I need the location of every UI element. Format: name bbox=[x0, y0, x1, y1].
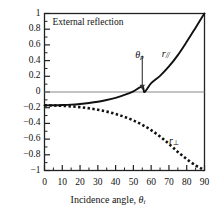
y-tick-label: 1 bbox=[36, 9, 41, 19]
r-perpendicular-subscript: ⊥ bbox=[173, 139, 179, 147]
chart-title: External reflection bbox=[53, 17, 124, 27]
y-tick-label: 0.4 bbox=[29, 56, 41, 66]
y-tick-label: −1 bbox=[30, 166, 40, 176]
curve-r_perpendicular bbox=[45, 105, 205, 170]
r-parallel-subscript: // bbox=[166, 52, 169, 61]
theta-subscript-i: i bbox=[144, 198, 146, 206]
y-tick-label: −0.2 bbox=[23, 103, 40, 113]
x-axis-title-text: Incidence angle, bbox=[71, 194, 139, 205]
brewster-angle-label: θp bbox=[135, 49, 143, 61]
curve-label-r-perpendicular: r⊥ bbox=[169, 135, 179, 147]
x-tick-label: 90 bbox=[193, 178, 217, 188]
y-tick-label: 0 bbox=[36, 87, 41, 97]
y-tick-label: −0.8 bbox=[23, 150, 40, 160]
y-tick-label: −0.4 bbox=[23, 118, 40, 128]
curve-label-r-parallel: r// bbox=[162, 48, 169, 60]
theta-p-subscript: p bbox=[140, 53, 144, 61]
y-tick-label: 0.8 bbox=[29, 24, 41, 34]
x-axis-title: Incidence angle, θi bbox=[0, 194, 216, 206]
y-tick-label: −0.6 bbox=[23, 134, 40, 144]
y-tick-label: 0.6 bbox=[29, 40, 41, 50]
y-tick-label: 0.2 bbox=[29, 71, 41, 81]
figure-container: External reflection 10.80.60.40.20−0.2−0… bbox=[0, 0, 216, 214]
